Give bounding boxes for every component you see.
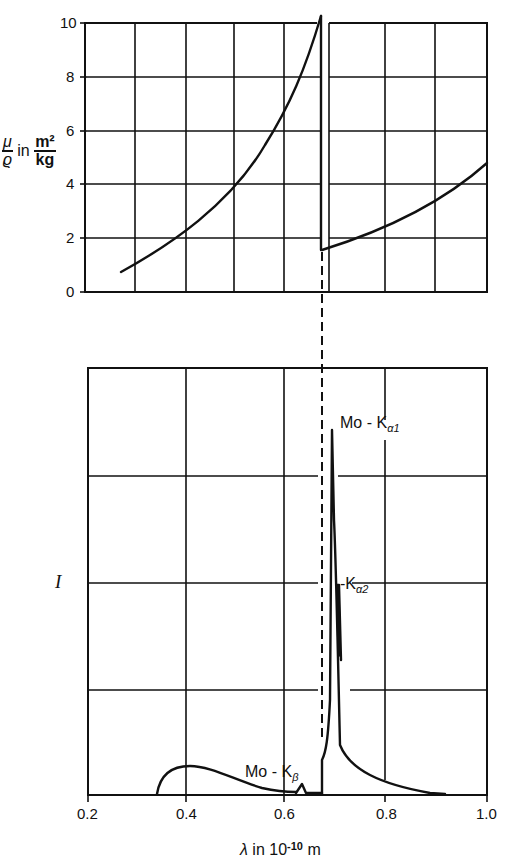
x-tick-1-0: 1.0 xyxy=(476,806,497,821)
x-tick-0-4: 0.4 xyxy=(176,806,197,821)
x-tick-0-2: 0.2 xyxy=(77,806,98,821)
top-y-tick-2: 2 xyxy=(66,230,74,245)
top-y-tick-4: 4 xyxy=(66,176,74,191)
chart-canvas xyxy=(0,0,517,866)
top-y-tick-6: 6 xyxy=(66,123,74,138)
intensity-spectrum xyxy=(157,430,445,794)
top-y-tick-8: 8 xyxy=(66,69,74,84)
top-y-tick-10: 10 xyxy=(60,15,77,30)
annotation-mo-ka1: Mo - Kα1 xyxy=(340,415,400,436)
bottom-chart-grid xyxy=(88,368,487,802)
x-tick-0-8: 0.8 xyxy=(376,806,397,821)
top-y-tick-0: 0 xyxy=(66,284,74,299)
x-axis-label: λ in 10-10 m xyxy=(240,838,321,858)
top-y-axis-label: μϱ in m²kg xyxy=(2,134,56,168)
annotation-mo-kb: Mo - Kβ xyxy=(245,764,298,785)
annotation-ka2: -Kα2 xyxy=(340,576,368,597)
x-tick-0-6: 0.6 xyxy=(274,806,295,821)
top-chart-grid xyxy=(80,23,487,292)
absorption-curve xyxy=(121,16,487,272)
bottom-y-axis-label: I xyxy=(55,574,61,590)
